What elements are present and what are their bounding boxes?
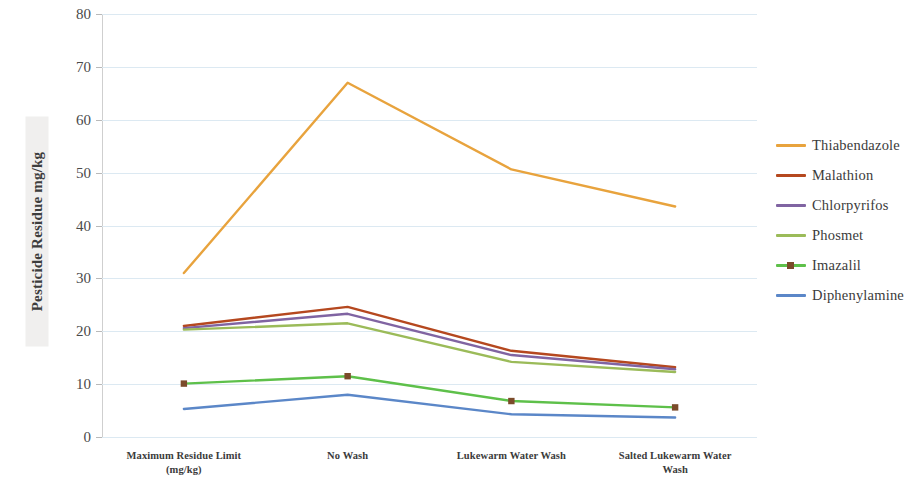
y-axis-tick-label: 80: [76, 6, 91, 23]
chart-legend: ThiabendazoleMalathionChlorpyrifosPhosme…: [776, 130, 917, 310]
legend-item-diphenylamine[interactable]: Diphenylamine: [776, 280, 917, 310]
x-axis-label-line: (mg/kg): [166, 464, 202, 475]
x-axis-label-line: Lukewarm Water Wash: [457, 450, 566, 461]
y-axis-tick: [96, 437, 102, 438]
legend-item-phosmet[interactable]: Phosmet: [776, 220, 917, 250]
series-line-thiabendazole: [184, 83, 675, 273]
legend-swatch-icon: [776, 229, 806, 241]
legend-swatch-icon: [776, 259, 806, 271]
gridline: [102, 437, 757, 438]
legend-swatch-icon: [776, 289, 806, 301]
y-axis-tick-label: 60: [76, 111, 91, 128]
legend-label: Chlorpyrifos: [812, 197, 889, 214]
x-axis-label-line: Wash: [662, 464, 688, 475]
y-axis-tick-label: 70: [76, 58, 91, 75]
legend-item-imazalil[interactable]: Imazalil: [776, 250, 917, 280]
x-axis-label-line: No Wash: [327, 450, 368, 461]
x-axis-label-line: Salted Lukewarm Water: [619, 450, 732, 461]
x-axis-tick-label: Salted Lukewarm WaterWash: [595, 449, 755, 477]
plot-area: 01020304050607080: [102, 14, 757, 437]
y-axis-tick-label: 50: [76, 164, 91, 181]
legend-item-thiabendazole[interactable]: Thiabendazole: [776, 130, 917, 160]
series-layer: [102, 14, 757, 437]
data-point-marker-imazalil: [181, 380, 187, 386]
x-axis-tick-label: Maximum Residue Limit(mg/kg): [104, 449, 264, 477]
y-axis-title: Pesticide Residue mg/kg: [26, 117, 49, 347]
legend-swatch-icon: [776, 139, 806, 151]
legend-swatch-icon: [776, 199, 806, 211]
legend-label: Malathion: [812, 167, 873, 184]
y-axis-tick-label: 40: [76, 217, 91, 234]
x-axis-label-line: Maximum Residue Limit: [127, 450, 242, 461]
data-point-marker-imazalil: [508, 398, 514, 404]
x-axis-tick-label: No Wash: [268, 449, 428, 463]
legend-label: Thiabendazole: [812, 137, 900, 154]
legend-item-chlorpyrifos[interactable]: Chlorpyrifos: [776, 190, 917, 220]
y-axis-tick-label: 0: [84, 429, 92, 446]
pesticide-residue-line-chart: Pesticide Residue mg/kg 0102030405060708…: [0, 0, 917, 489]
legend-item-malathion[interactable]: Malathion: [776, 160, 917, 190]
data-point-marker-imazalil: [672, 404, 678, 410]
legend-label: Imazalil: [812, 257, 861, 274]
legend-label: Diphenylamine: [812, 287, 904, 304]
legend-label: Phosmet: [812, 227, 863, 244]
series-line-diphenylamine: [184, 395, 675, 418]
y-axis-tick-label: 30: [76, 270, 91, 287]
y-axis-tick-label: 20: [76, 323, 91, 340]
data-point-marker-imazalil: [344, 373, 350, 379]
y-axis-tick-label: 10: [76, 376, 91, 393]
legend-swatch-icon: [776, 169, 806, 181]
series-line-phosmet: [184, 323, 675, 372]
x-axis-tick-label: Lukewarm Water Wash: [431, 449, 591, 463]
series-line-malathion: [184, 307, 675, 367]
